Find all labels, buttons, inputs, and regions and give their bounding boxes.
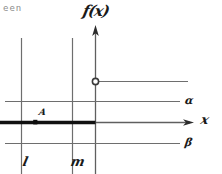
alpha-line-label: α xyxy=(184,95,194,106)
point-a-marker xyxy=(33,120,37,125)
cropped-scan-text: een xyxy=(3,4,22,13)
diagram-canvas: een f(x) x α β l m A xyxy=(0,0,222,174)
beta-line-label: β xyxy=(184,137,193,148)
open-circle-marker xyxy=(92,78,98,84)
y-axis-label: f(x) xyxy=(81,4,110,19)
vertical-line-m-label: m xyxy=(70,155,87,168)
